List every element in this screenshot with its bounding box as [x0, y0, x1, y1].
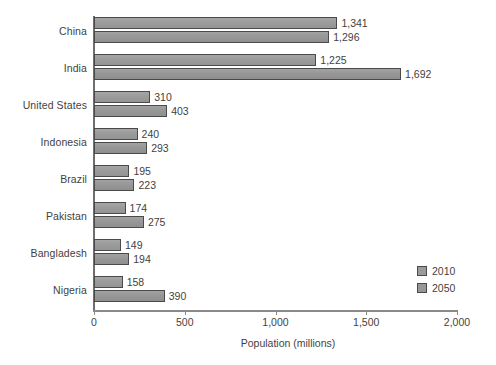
category-label: Nigeria	[53, 284, 87, 296]
legend-swatch-icon	[417, 283, 427, 293]
category-label: China	[59, 25, 87, 37]
bar-group: India1,2251,692	[94, 53, 457, 83]
bar-2010-bangladesh[interactable]	[94, 239, 121, 251]
legend-label: 2010	[432, 265, 455, 277]
bar-group: Bangladesh149194	[94, 238, 457, 268]
bar-2010-india[interactable]	[94, 54, 316, 66]
bar-2010-indonesia[interactable]	[94, 128, 138, 140]
bar-2010-pakistan[interactable]	[94, 202, 126, 214]
bar-value-label: 403	[171, 105, 189, 117]
bar-value-label: 1,225	[320, 54, 346, 66]
bar-value-label: 149	[125, 239, 143, 251]
x-tick-label: 2,000	[444, 316, 470, 328]
bar-group: Indonesia240293	[94, 127, 457, 157]
bar-value-label: 275	[148, 216, 166, 228]
bar-value-label: 310	[154, 91, 172, 103]
bar-value-label: 240	[142, 128, 160, 140]
bar-group: United States310403	[94, 90, 457, 120]
bar-2010-united-states[interactable]	[94, 91, 150, 103]
x-tick	[185, 311, 186, 315]
bar-group: China1,3411,296	[94, 16, 457, 46]
plot-area: China1,3411,296India1,2251,692United Sta…	[94, 16, 457, 310]
bar-2050-indonesia[interactable]	[94, 142, 147, 154]
bar-2050-pakistan[interactable]	[94, 216, 144, 228]
bar-value-label: 158	[127, 276, 145, 288]
bar-2050-nigeria[interactable]	[94, 290, 165, 302]
bar-2050-united-states[interactable]	[94, 105, 167, 117]
x-tick-label: 500	[176, 316, 194, 328]
bar-2010-china[interactable]	[94, 17, 337, 29]
category-label: India	[64, 62, 87, 74]
category-label: Bangladesh	[31, 247, 87, 259]
bar-2050-bangladesh[interactable]	[94, 253, 129, 265]
bar-value-label: 1,296	[333, 31, 359, 43]
bar-group: Pakistan174275	[94, 201, 457, 231]
bar-2050-china[interactable]	[94, 31, 329, 43]
x-axis-title: Population (millions)	[0, 337, 496, 349]
bar-2010-brazil[interactable]	[94, 165, 129, 177]
bar-2010-nigeria[interactable]	[94, 276, 123, 288]
bar-value-label: 390	[169, 290, 187, 302]
bar-value-label: 195	[133, 165, 151, 177]
bar-value-label: 194	[133, 253, 151, 265]
x-tick	[94, 311, 95, 315]
category-label: Pakistan	[46, 210, 87, 222]
x-tick-label: 0	[91, 316, 97, 328]
bar-2050-brazil[interactable]	[94, 179, 134, 191]
x-tick-label: 1,000	[262, 316, 288, 328]
bar-2050-india[interactable]	[94, 68, 401, 80]
bar-group: Brazil195223	[94, 164, 457, 194]
category-label: United States	[23, 99, 87, 111]
legend-item-2050[interactable]: 2050	[417, 282, 455, 294]
bar-value-label: 223	[138, 179, 156, 191]
bar-group: Nigeria158390	[94, 275, 457, 305]
x-tick	[366, 311, 367, 315]
bar-value-label: 293	[151, 142, 169, 154]
bar-value-label: 1,692	[405, 68, 431, 80]
x-axis-title-text: Population (millions)	[241, 337, 336, 349]
chart-legend: 20102050	[417, 265, 455, 299]
legend-item-2010[interactable]: 2010	[417, 265, 455, 277]
legend-label: 2050	[432, 282, 455, 294]
bar-value-label: 174	[130, 202, 148, 214]
category-label: Brazil	[60, 173, 87, 185]
population-bar-chart: China1,3411,296India1,2251,692United Sta…	[0, 0, 496, 365]
x-tick	[276, 311, 277, 315]
x-tick	[457, 311, 458, 315]
bar-value-label: 1,341	[341, 17, 367, 29]
category-label: Indonesia	[41, 136, 87, 148]
x-tick-label: 1,500	[353, 316, 379, 328]
legend-swatch-icon	[417, 266, 427, 276]
